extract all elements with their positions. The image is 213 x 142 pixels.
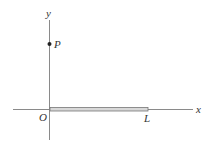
rod	[50, 108, 148, 112]
point-p-dot	[48, 42, 52, 46]
point-p-label: P	[53, 38, 61, 50]
x-axis-label: x	[195, 103, 201, 115]
y-axis-label: y	[45, 7, 51, 19]
rod-end-label: L	[143, 112, 150, 124]
origin-label: O	[39, 111, 47, 123]
diagram-canvas: y P O L x	[0, 0, 213, 142]
